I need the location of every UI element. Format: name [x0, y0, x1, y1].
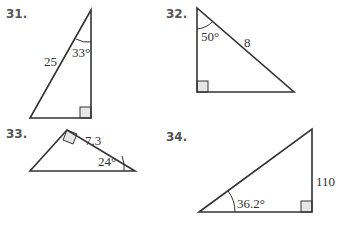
angle-label-34: 36.2°: [237, 196, 265, 212]
angle-arc: [228, 191, 235, 212]
right-angle-marker: [301, 201, 312, 212]
side-label-34: 110: [316, 174, 335, 190]
side-label-33: 7.3: [85, 133, 101, 149]
hypotenuse-label-31: 25: [44, 54, 57, 70]
hypotenuse-label-32: 8: [244, 35, 251, 51]
problem-number-34: 34.: [166, 130, 187, 144]
triangle-31: [30, 10, 91, 118]
problem-number-32: 32.: [166, 7, 187, 21]
problem-number-31: 31.: [6, 7, 27, 21]
problem-number-33: 33.: [6, 127, 27, 141]
right-angle-marker: [80, 107, 91, 118]
angle-arc: [76, 39, 91, 42]
angle-arc: [197, 21, 213, 29]
triangle-diagrams: [0, 0, 338, 225]
angle-label-33: 24°: [98, 154, 116, 170]
triangle-33: [30, 130, 135, 171]
angle-label-31: 33°: [72, 45, 90, 61]
right-angle-marker: [197, 81, 208, 92]
angle-label-32: 50°: [201, 29, 219, 45]
